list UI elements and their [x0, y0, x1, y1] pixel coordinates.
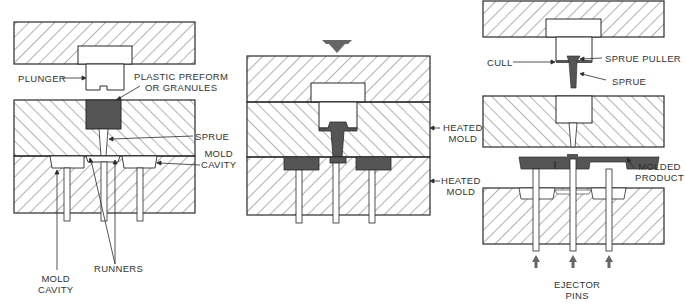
label-molded-product-line1: MOLDED [635, 161, 684, 172]
label-plastic-preform-line1: PLASTIC PREFORM [134, 71, 228, 82]
label-heated-mold-upper-line2: MOLD [443, 133, 483, 144]
down-arrow-icon [322, 40, 352, 53]
lower-heated-mold [247, 157, 430, 223]
label-runners: RUNNERS [94, 263, 143, 274]
stage-2 [247, 40, 440, 223]
ejector-pin-right [137, 168, 143, 221]
upper-heated-mold [247, 102, 430, 157]
plunger-plate [14, 22, 195, 64]
filled-runner [330, 157, 346, 163]
label-molded-product: MOLDED PRODUCT [635, 161, 684, 183]
up-arrow-icon [532, 255, 540, 268]
label-ejector-pins-line2: PINS [554, 290, 600, 301]
label-mold-cavity-right-line1: MOLD [201, 148, 236, 159]
label-molded-product-line2: PRODUCT [635, 172, 684, 183]
label-heated-mold-upper-line1: HEATED [443, 122, 483, 133]
label-mold-cavity-right: MOLD CAVITY [201, 148, 236, 170]
mold-cavity-right [122, 156, 157, 168]
label-ejector-pins-line1: EJECTOR [554, 279, 600, 290]
stage-2-leaders [430, 126, 440, 183]
label-cull: CULL [487, 57, 513, 68]
top-plate-with-plunger [483, 1, 664, 88]
plunger [86, 64, 124, 90]
label-mold-cavity-right-line2: CAVITY [201, 159, 236, 170]
label-sprue-stage3: SPRUE [612, 76, 646, 87]
sprue-channel [99, 129, 108, 156]
upper-mold-open [483, 96, 664, 147]
label-mold-cavity-bottom-line2: CAVITY [38, 284, 73, 295]
top-plate [247, 56, 430, 102]
label-mold-cavity-bottom: MOLD CAVITY [38, 273, 73, 295]
up-arrow-icon [569, 255, 577, 268]
stage-3 [483, 1, 664, 268]
up-arrow-icon [605, 255, 613, 268]
label-sprue-puller: SPRUE PULLER [605, 53, 681, 64]
upper-mold [14, 100, 195, 156]
stage-1 [14, 22, 200, 270]
label-heated-mold-lower-line2: MOLD [441, 186, 481, 197]
ejector-pin-left [64, 168, 70, 221]
label-heated-mold-upper: HEATED MOLD [443, 122, 483, 144]
label-plastic-preform: PLASTIC PREFORM OR GRANULES [134, 71, 228, 93]
ejector-arrows [532, 255, 613, 268]
filled-cavity-right [356, 157, 391, 170]
label-heated-mold-lower: HEATED MOLD [441, 175, 481, 197]
label-plunger: PLUNGER [18, 73, 66, 84]
label-plastic-preform-line2: OR GRANULES [134, 82, 228, 93]
filled-cavity-left [284, 157, 319, 170]
label-ejector-pins: EJECTOR PINS [554, 279, 600, 301]
transfer-molding-diagram [0, 0, 685, 304]
plastic-preform [86, 100, 121, 129]
label-mold-cavity-bottom-line1: MOLD [38, 273, 73, 284]
label-sprue-stage1: SPRUE [195, 131, 229, 142]
mold-cavity-left [50, 156, 84, 168]
label-heated-mold-lower-line1: HEATED [441, 175, 481, 186]
lower-mold [14, 156, 195, 221]
ejector-pin-center [101, 162, 107, 221]
